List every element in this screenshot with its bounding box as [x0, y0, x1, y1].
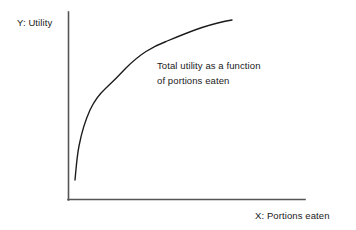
- curve-annotation-line-1: Total utility as a function: [157, 58, 261, 73]
- curve-annotation: Total utility as a function of portions …: [157, 58, 261, 88]
- y-axis-label: Y: Utility: [17, 17, 52, 28]
- total-utility-curve: [75, 20, 232, 180]
- x-axis-label: X: Portions eaten: [255, 210, 330, 221]
- plot-area: [0, 0, 356, 230]
- utility-chart-figure: Y: Utility X: Portions eaten Total utili…: [0, 0, 356, 230]
- curve-annotation-line-2: of portions eaten: [157, 73, 261, 88]
